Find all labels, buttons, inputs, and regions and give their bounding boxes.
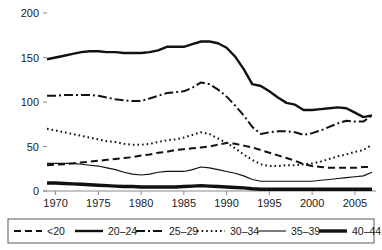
legend-item-label: 35–39 [291, 225, 320, 237]
y-tick-label: 150 [21, 52, 39, 64]
legend-item-label: 40–44 [352, 225, 381, 237]
chart-container: 050100150200 197019751980198519901995200… [0, 0, 382, 250]
legend-item-label: <20 [47, 225, 65, 237]
x-tick-label: 2005 [343, 197, 367, 209]
y-tick-label: 200 [21, 7, 39, 19]
series-line-35-39 [47, 163, 372, 181]
x-axis-ticks: 19701975198019851990199520002005 [43, 191, 367, 209]
y-tick-label: 50 [27, 141, 39, 153]
x-tick-label: 1980 [129, 197, 153, 209]
legend-item-label: 20–24 [108, 225, 137, 237]
series-lines [47, 41, 372, 189]
x-tick-label: 1975 [86, 197, 110, 209]
x-tick-label: 1970 [43, 197, 67, 209]
x-tick-label: 2000 [300, 197, 324, 209]
series-line-20 [47, 143, 372, 168]
chart-legend: <2020–2425–2930–3435–3940–44 [8, 219, 381, 243]
y-tick-label: 100 [21, 96, 39, 108]
x-tick-label: 1995 [257, 197, 281, 209]
series-line-20-24 [47, 41, 372, 117]
y-tick-label: 0 [33, 185, 39, 197]
x-tick-label: 1985 [172, 197, 196, 209]
line-chart: 050100150200 197019751980198519901995200… [0, 0, 382, 250]
legend-item-label: 30–34 [230, 225, 259, 237]
x-tick-label: 1990 [214, 197, 238, 209]
series-line-40-44 [47, 183, 372, 189]
y-axis-ticks: 050100150200 [21, 7, 47, 197]
legend-item-label: 25–29 [169, 225, 198, 237]
